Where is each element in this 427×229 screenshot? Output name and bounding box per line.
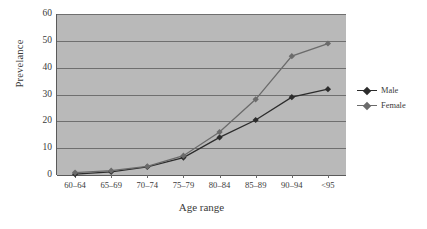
data-point-marker xyxy=(216,134,222,140)
legend-label: Female xyxy=(377,101,406,110)
chart-figure: Prevelance 0102030405060 60–6465–6970–74… xyxy=(0,0,427,229)
legend-marker-icon xyxy=(357,86,377,96)
data-point-marker xyxy=(253,117,259,123)
data-point-marker xyxy=(325,40,331,46)
legend-item-female[interactable]: Female xyxy=(357,99,425,112)
data-point-marker xyxy=(108,168,114,174)
series-female xyxy=(72,40,331,175)
data-point-marker xyxy=(325,86,331,92)
legend-marker-icon xyxy=(357,101,377,111)
chart-legend: MaleFemale xyxy=(357,84,425,114)
series-overlay xyxy=(0,0,427,229)
series-line xyxy=(75,89,328,174)
data-point-marker xyxy=(144,163,150,169)
data-point-marker xyxy=(289,94,295,100)
legend-label: Male xyxy=(377,86,398,95)
series-line xyxy=(75,44,328,173)
series-male xyxy=(72,86,331,177)
legend-item-male[interactable]: Male xyxy=(357,84,425,97)
x-axis-title: Age range xyxy=(57,201,346,213)
